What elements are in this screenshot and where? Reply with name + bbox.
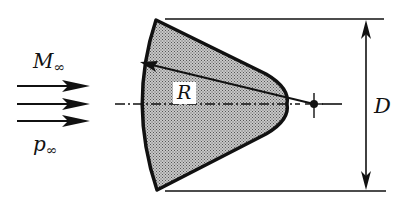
diameter-label: D <box>373 94 391 118</box>
flow-arrow-icon <box>17 115 90 127</box>
diameter-dimension: D <box>361 20 391 190</box>
radius-label: R <box>176 81 191 103</box>
diagram-canvas: M∞ p∞ R D <box>0 0 408 199</box>
flow-arrow-icon <box>17 80 90 92</box>
flow-arrow-icon <box>17 98 90 110</box>
mach-number-label: M∞ <box>32 49 65 75</box>
freestream-arrows <box>17 80 90 127</box>
body-shape <box>142 20 287 190</box>
center-point-icon <box>305 93 323 118</box>
freestream-pressure-label: p∞ <box>33 132 57 158</box>
